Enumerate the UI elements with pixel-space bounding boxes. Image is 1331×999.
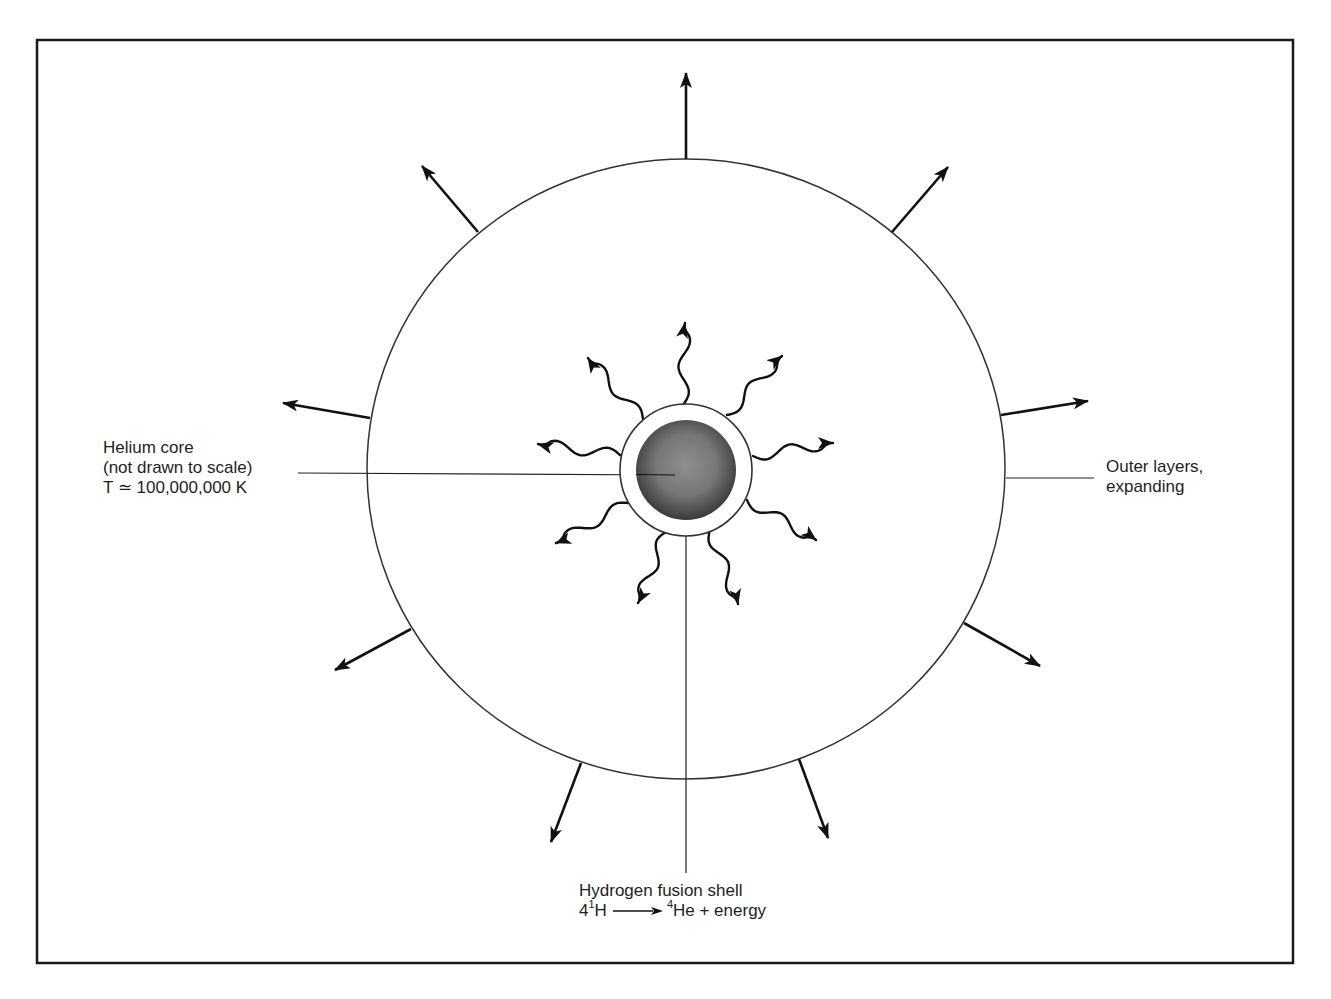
- expansion-arrow-icon: [964, 623, 1040, 666]
- helium-core-label: Helium core (not drawn to scale) T ≃ 100…: [103, 438, 252, 498]
- energy-wavy-arrow-icon: [638, 532, 666, 603]
- fusion-equation: 41H4He + energy: [579, 901, 766, 921]
- outer-layers-note: expanding: [1106, 477, 1203, 497]
- outer-layers-title: Outer layers,: [1106, 457, 1203, 477]
- expansion-arrow-icon: [1001, 401, 1088, 415]
- expansion-arrow-icon: [335, 629, 411, 670]
- helium-mass-number: 4: [667, 898, 673, 910]
- helium-core: [636, 420, 736, 520]
- energy-wavy-arrow-icon: [556, 503, 628, 543]
- helium-core-temperature: T ≃ 100,000,000 K: [103, 478, 252, 498]
- expansion-arrow-icon: [551, 763, 581, 842]
- energy-wavy-arrow-icon: [709, 530, 739, 604]
- fusion-shell-label: Hydrogen fusion shell 41H4He + energy: [579, 881, 766, 921]
- helium-core-title: Helium core: [103, 438, 252, 458]
- reaction-arrow-icon: [613, 906, 663, 916]
- core-leader-line-inner: [636, 475, 675, 476]
- outer-layers-label: Outer layers, expanding: [1106, 457, 1203, 497]
- energy-wavy-arrow-icon: [727, 356, 782, 415]
- energy-wavy-arrow-icon: [679, 323, 691, 405]
- energy-wavy-arrow-icon: [588, 358, 643, 419]
- core-leader-line: [298, 473, 675, 475]
- energy-wavy-arrow-icon: [538, 441, 620, 456]
- energy-wavy-arrow-icon: [747, 500, 816, 540]
- hydrogen-symbol: H: [595, 901, 607, 920]
- hydrogen-mass-number: 1: [588, 898, 594, 910]
- expansion-arrow-icon: [892, 167, 948, 232]
- energy-wavy-arrow-icon: [753, 443, 833, 460]
- expansion-arrow-icon: [422, 166, 478, 232]
- helium-products: He + energy: [673, 901, 766, 920]
- expansion-arrow-icon: [799, 759, 828, 838]
- helium-core-note: (not drawn to scale): [103, 458, 252, 478]
- red-giant-diagram: [0, 0, 1331, 999]
- expansion-arrow-icon: [283, 403, 370, 418]
